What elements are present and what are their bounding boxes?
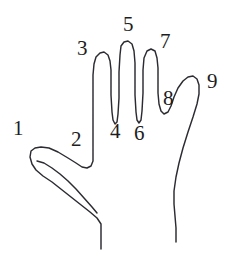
landmark-label-9: 9	[207, 71, 218, 92]
landmark-label-3: 3	[77, 38, 88, 59]
landmark-label-4: 4	[110, 121, 121, 142]
landmark-label-7: 7	[160, 31, 171, 52]
landmark-label-2: 2	[71, 129, 82, 150]
landmark-label-6: 6	[134, 123, 145, 144]
hand-landmark-figure: 1 2 3 4 5 6 7 8 9	[0, 0, 235, 262]
thumb-crease-path	[37, 161, 97, 213]
landmark-label-5: 5	[123, 14, 134, 35]
landmark-label-1: 1	[13, 118, 24, 139]
landmark-label-8: 8	[163, 88, 174, 109]
hand-outline-path	[30, 41, 199, 249]
